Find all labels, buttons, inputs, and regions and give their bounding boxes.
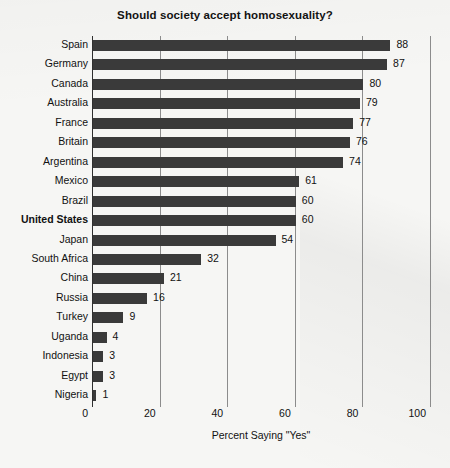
bar-row: 87 — [92, 55, 450, 74]
x-tick-label-60: 60 — [279, 407, 295, 420]
category-label-row: Nigeria — [0, 386, 92, 405]
category-label-south-africa: South Africa — [31, 252, 88, 265]
bar — [93, 157, 343, 168]
category-label-row: Turkey — [0, 308, 92, 327]
x-tick-mark-60 — [295, 396, 296, 407]
category-label-turkey: Turkey — [56, 310, 88, 323]
bar-row: 80 — [92, 75, 450, 94]
bar — [93, 235, 276, 246]
category-label-egypt: Egypt — [61, 369, 88, 382]
bar-value-label: 76 — [356, 135, 368, 148]
bar-row: 88 — [92, 36, 450, 55]
category-label-china: China — [61, 271, 88, 284]
category-label-mexico: Mexico — [55, 174, 88, 187]
chart-title: Should society accept homosexuality? — [0, 9, 450, 21]
bar-row: 60 — [92, 211, 450, 230]
bar — [93, 390, 96, 401]
category-label-united-states: United States — [21, 213, 88, 226]
bar-value-label: 54 — [282, 233, 294, 246]
bar-value-label: 21 — [170, 271, 182, 284]
bar-rows: 888780797776746160605432211694331 — [92, 36, 430, 405]
category-label-argentina: Argentina — [43, 155, 88, 168]
bar-row: 77 — [92, 114, 450, 133]
category-label-japan: Japan — [59, 233, 88, 246]
bar — [93, 137, 350, 148]
x-tick-label-80: 80 — [347, 407, 363, 420]
bar — [93, 254, 201, 265]
bar-row: 3 — [92, 367, 450, 386]
bar-row: 32 — [92, 250, 450, 269]
bar — [93, 273, 164, 284]
bar — [93, 293, 147, 304]
bar-value-label: 74 — [349, 155, 361, 168]
category-label-spain: Spain — [61, 38, 88, 51]
category-label-nigeria: Nigeria — [55, 388, 88, 401]
bar-row: 9 — [92, 308, 450, 327]
bar-row: 76 — [92, 133, 450, 152]
bar — [93, 79, 363, 90]
bar — [93, 371, 103, 382]
bar-value-label: 60 — [302, 194, 314, 207]
category-label-russia: Russia — [56, 291, 88, 304]
bar-value-label: 79 — [366, 96, 378, 109]
bar-value-label: 77 — [359, 116, 371, 129]
x-tick-label-40: 40 — [212, 407, 228, 420]
x-axis-ticks: 020406080100 — [92, 405, 440, 425]
bar-row: 1 — [92, 386, 450, 405]
bar-row: 74 — [92, 153, 450, 172]
category-label-row: Mexico — [0, 172, 92, 191]
x-tick-mark-100 — [430, 396, 431, 407]
bar-row: 4 — [92, 328, 450, 347]
bar-value-label: 9 — [129, 310, 135, 323]
x-tick-mark-40 — [227, 396, 228, 407]
category-label-row: Spain — [0, 36, 92, 55]
bar — [93, 118, 353, 129]
plot-area: 888780797776746160605432211694331 — [92, 36, 430, 405]
category-label-row: Indonesia — [0, 347, 92, 366]
bar-value-label: 88 — [396, 38, 408, 51]
category-label-canada: Canada — [51, 77, 88, 90]
x-axis-label: Percent Saying "Yes" — [92, 429, 430, 441]
category-label-row: South Africa — [0, 250, 92, 269]
x-tick-mark-20 — [160, 396, 161, 407]
chart-figure: Should society accept homosexuality? Spa… — [0, 0, 450, 468]
bar-value-label: 32 — [207, 252, 219, 265]
bar-row: 3 — [92, 347, 450, 366]
x-tick-label-0: 0 — [82, 407, 92, 420]
category-label-uganda: Uganda — [51, 330, 88, 343]
category-label-britain: Britain — [58, 135, 88, 148]
category-label-row: Australia — [0, 94, 92, 113]
bar-row: 54 — [92, 231, 450, 250]
bar — [93, 98, 360, 109]
category-label-row: Brazil — [0, 192, 92, 211]
category-label-germany: Germany — [45, 57, 88, 70]
bar-value-label: 3 — [109, 369, 115, 382]
bar-row: 60 — [92, 192, 450, 211]
category-label-row: Russia — [0, 289, 92, 308]
category-label-row: France — [0, 114, 92, 133]
x-tick-label-100: 100 — [408, 407, 430, 420]
category-label-france: France — [55, 116, 88, 129]
bar-value-label: 80 — [369, 77, 381, 90]
bar — [93, 332, 107, 343]
x-tick-mark-80 — [362, 396, 363, 407]
bar — [93, 312, 123, 323]
x-tick-label-20: 20 — [144, 407, 160, 420]
bar — [93, 215, 296, 226]
category-label-indonesia: Indonesia — [42, 349, 88, 362]
bar-value-label: 3 — [109, 349, 115, 362]
bar-row: 61 — [92, 172, 450, 191]
bar-row: 79 — [92, 94, 450, 113]
bar — [93, 196, 296, 207]
bar — [93, 176, 299, 187]
category-label-brazil: Brazil — [62, 194, 88, 207]
category-label-row: Canada — [0, 75, 92, 94]
category-label-row: Argentina — [0, 153, 92, 172]
bar-row: 16 — [92, 289, 450, 308]
bar-value-label: 4 — [113, 330, 119, 343]
bar — [93, 351, 103, 362]
bar-value-label: 16 — [153, 291, 165, 304]
bar — [93, 40, 390, 51]
category-label-row: Egypt — [0, 367, 92, 386]
x-tick-mark-0 — [92, 396, 93, 407]
